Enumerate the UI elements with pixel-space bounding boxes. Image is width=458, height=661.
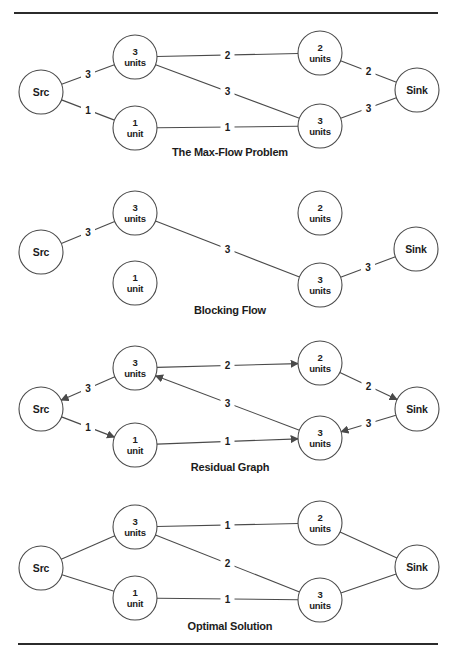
edge-label-n2-sink: 2 bbox=[366, 66, 372, 77]
edge-label-n3a-n2: 1 bbox=[225, 520, 231, 531]
node-n2-label: units bbox=[309, 213, 331, 224]
node-n3a-label: units bbox=[124, 213, 146, 224]
node-n1-label: unit bbox=[127, 598, 145, 609]
edge-label-n3a-n3b: 3 bbox=[225, 86, 231, 97]
node-n1-label: unit bbox=[127, 445, 145, 456]
node-n3b-label: 3 bbox=[317, 427, 322, 438]
node-n3b-label: units bbox=[309, 600, 331, 611]
edge-label-n1-n3b: 1 bbox=[225, 122, 231, 133]
node-sink-label: Sink bbox=[406, 561, 428, 573]
diagram-optimal-solution: 121Src3units1unit2units3unitsSinkOptimal… bbox=[19, 501, 439, 632]
node-n3b-label: units bbox=[309, 126, 331, 137]
figure-svg: 3123123Src3units1unit2units3unitsSinkThe… bbox=[0, 0, 458, 661]
caption-optimal-solution: Optimal Solution bbox=[188, 620, 273, 632]
edge-label-n3b-sink: 3 bbox=[365, 262, 371, 273]
node-n3b-label: units bbox=[309, 285, 331, 296]
node-src-label: Src bbox=[33, 246, 50, 258]
node-n3b-label: units bbox=[309, 438, 331, 449]
edge-label-n3a-n2: 2 bbox=[225, 50, 231, 61]
edge-label-n3a-src: 3 bbox=[85, 383, 91, 394]
edge-label-n1-n3b: 1 bbox=[225, 436, 231, 447]
caption-max-flow-problem: The Max-Flow Problem bbox=[172, 146, 288, 158]
edge-src-n1 bbox=[62, 575, 114, 592]
edge-label-n1-n3b: 1 bbox=[225, 594, 231, 605]
node-n3a-label: 3 bbox=[132, 516, 137, 527]
node-n3a-label: units bbox=[124, 57, 146, 68]
node-n3b-label: 3 bbox=[317, 115, 322, 126]
diagram-blocking-flow: 333Src3units1unit2units3unitsSinkBlockin… bbox=[19, 191, 438, 316]
diagram-max-flow-problem: 3123123Src3units1unit2units3unitsSinkThe… bbox=[19, 31, 439, 158]
edge-label-n3b-sink: 3 bbox=[366, 103, 372, 114]
node-n2-label: units bbox=[309, 53, 331, 64]
edge-label-sink-n3b: 3 bbox=[366, 418, 372, 429]
node-n3a-label: 3 bbox=[132, 46, 137, 57]
edge-label-src-n3a: 3 bbox=[85, 227, 91, 238]
edge-label-n3a-n2: 2 bbox=[225, 360, 231, 371]
node-n3a-label: units bbox=[124, 527, 146, 538]
node-sink-label: Sink bbox=[406, 403, 428, 415]
figure-page: 3123123Src3units1unit2units3unitsSinkThe… bbox=[0, 0, 458, 661]
node-n1-label: unit bbox=[127, 128, 145, 139]
node-n3b-label: 3 bbox=[317, 589, 322, 600]
node-n3a-label: 3 bbox=[132, 357, 137, 368]
edge-n2-sink bbox=[340, 532, 397, 558]
edge-label-src-n3a: 3 bbox=[85, 69, 91, 80]
edge-label-n3a-n3b: 2 bbox=[225, 558, 231, 569]
node-n2-label: 2 bbox=[317, 352, 322, 363]
node-sink-label: Sink bbox=[405, 243, 427, 255]
edge-src-n3a bbox=[61, 536, 115, 559]
node-n3a-label: 3 bbox=[132, 202, 137, 213]
edge-n3b-sink bbox=[341, 574, 396, 593]
node-n2-label: 2 bbox=[317, 202, 322, 213]
edge-label-src-n1: 1 bbox=[85, 422, 91, 433]
node-sink-label: Sink bbox=[406, 84, 428, 96]
node-n2-label: 2 bbox=[317, 512, 322, 523]
node-n3a-label: units bbox=[124, 368, 146, 379]
node-n2-label: units bbox=[309, 523, 331, 534]
caption-blocking-flow: Blocking Flow bbox=[194, 304, 267, 316]
node-n2-label: units bbox=[309, 363, 331, 374]
node-src-label: Src bbox=[33, 562, 50, 574]
caption-residual-graph: Residual Graph bbox=[191, 461, 270, 473]
edge-label-n3a-n3b: 3 bbox=[225, 244, 231, 255]
node-n1-label: unit bbox=[127, 283, 145, 294]
edge-label-n2-sink: 2 bbox=[366, 381, 372, 392]
diagram-residual-graph: 3123123Src3units1unit2units3unitsSinkRes… bbox=[19, 341, 439, 473]
node-src-label: Src bbox=[33, 403, 50, 415]
edge-label-src-n1: 1 bbox=[85, 105, 91, 116]
node-n3b-label: 3 bbox=[317, 274, 322, 285]
edge-label-n3b-n3a: 3 bbox=[225, 398, 231, 409]
node-src-label: Src bbox=[33, 86, 50, 98]
node-n2-label: 2 bbox=[317, 42, 322, 53]
